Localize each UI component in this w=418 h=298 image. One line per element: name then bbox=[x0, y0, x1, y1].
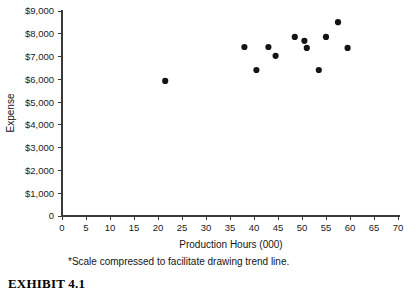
x-tick-label: 35 bbox=[225, 222, 236, 233]
data-point bbox=[162, 78, 168, 84]
data-point bbox=[304, 45, 310, 51]
data-point-group bbox=[162, 19, 351, 84]
x-tick-label: 60 bbox=[345, 222, 356, 233]
exhibit-label: EXHIBIT 4.1 bbox=[8, 276, 85, 292]
data-point bbox=[335, 19, 341, 25]
x-tick-label: 70 bbox=[393, 222, 404, 233]
x-axis-group: 0510152025303540455055606570 Production … bbox=[59, 216, 403, 250]
x-axis-title: Production Hours (000) bbox=[179, 239, 282, 250]
x-tick-label: 30 bbox=[201, 222, 212, 233]
x-tick-group: 0510152025303540455055606570 bbox=[59, 216, 403, 233]
data-point bbox=[273, 53, 279, 59]
data-point bbox=[301, 38, 307, 44]
x-tick-label: 10 bbox=[105, 222, 116, 233]
y-tick-label: $5,000 bbox=[25, 97, 54, 108]
x-tick-label: 20 bbox=[153, 222, 164, 233]
x-tick-label: 25 bbox=[177, 222, 188, 233]
x-tick-label: 55 bbox=[321, 222, 332, 233]
data-point bbox=[345, 45, 351, 51]
data-point bbox=[292, 34, 298, 40]
y-tick-label: 0 bbox=[49, 210, 54, 221]
scatter-plot: 0$1,000$2,000$3,000$4,000$5,000$6,000$7,… bbox=[0, 0, 418, 298]
y-tick-label: $3,000 bbox=[25, 142, 54, 153]
exhibit-figure: 0$1,000$2,000$3,000$4,000$5,000$6,000$7,… bbox=[0, 0, 418, 298]
data-point bbox=[316, 67, 322, 73]
y-axis-title: Expense bbox=[5, 93, 16, 132]
x-tick-label: 0 bbox=[59, 222, 64, 233]
y-tick-label: $7,000 bbox=[25, 51, 54, 62]
y-axis-group: 0$1,000$2,000$3,000$4,000$5,000$6,000$7,… bbox=[5, 5, 62, 221]
y-tick-label: $8,000 bbox=[25, 28, 54, 39]
x-tick-label: 50 bbox=[297, 222, 308, 233]
data-point bbox=[265, 44, 271, 50]
y-tick-group: 0$1,000$2,000$3,000$4,000$5,000$6,000$7,… bbox=[25, 5, 62, 221]
data-point bbox=[253, 67, 259, 73]
y-tick-label: $4,000 bbox=[25, 119, 54, 130]
x-tick-label: 15 bbox=[129, 222, 140, 233]
y-tick-label: $6,000 bbox=[25, 74, 54, 85]
x-tick-label: 40 bbox=[249, 222, 260, 233]
data-point bbox=[323, 34, 329, 40]
data-point bbox=[241, 44, 247, 50]
x-tick-label: 65 bbox=[369, 222, 380, 233]
y-tick-label: $9,000 bbox=[25, 5, 54, 16]
x-tick-label: 45 bbox=[273, 222, 284, 233]
y-tick-label: $1,000 bbox=[25, 188, 54, 199]
footnote-text: *Scale compressed to facilitate drawing … bbox=[68, 256, 289, 267]
x-tick-label: 5 bbox=[83, 222, 88, 233]
y-tick-label: $2,000 bbox=[25, 165, 54, 176]
